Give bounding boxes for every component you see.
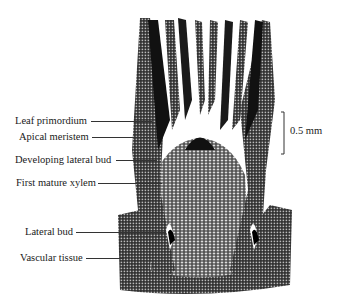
leader-line — [92, 137, 153, 138]
annotation-label: Leaf primordium — [15, 115, 87, 127]
scale-bar-label: 0.5 mm — [290, 125, 322, 136]
leader-line — [98, 183, 162, 184]
leaf-blade — [208, 20, 218, 115]
leader-line — [91, 121, 152, 122]
scale-bar — [281, 112, 284, 154]
annotation-label: First mature xylem — [16, 177, 96, 189]
annotation-label: Lateral bud — [25, 226, 73, 238]
annotation-label: Apical meristem — [19, 131, 89, 143]
leader-line — [76, 232, 166, 233]
apical-meristem — [185, 138, 215, 151]
leader-line — [116, 160, 157, 161]
leaf-blade — [220, 20, 233, 130]
leader-line — [86, 258, 124, 259]
annotation-label: Developing lateral bud — [15, 154, 111, 166]
leaf-blade — [178, 18, 192, 120]
annotation-label: Vascular tissue — [20, 252, 83, 264]
leaf-blade — [195, 20, 205, 115]
